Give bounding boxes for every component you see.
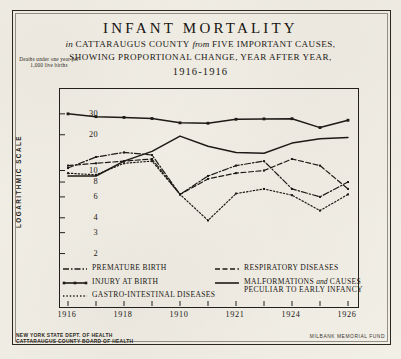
page-title: INFANT MORTALITY — [0, 20, 401, 37]
y-axis-tick-label: 2 — [64, 248, 98, 257]
series-marker — [347, 181, 349, 183]
legend-line-sample-icon — [62, 276, 92, 290]
subtitle-county: CATTARAUGUS COUNTY — [75, 39, 189, 49]
series-marker — [291, 194, 293, 196]
legend-line-sample-icon — [62, 289, 92, 303]
footer-left-line2: CATTARAUGUS COUNTY BOARD OF HEALTH — [16, 339, 133, 345]
subtitle-causes: FIVE IMPORTANT CAUSES, — [212, 39, 335, 49]
series-marker — [347, 119, 350, 122]
x-axis-tick-label: 1924 — [269, 310, 313, 319]
legend-line-sample-icon — [62, 262, 92, 276]
legend-line-sample-icon — [214, 276, 244, 292]
series-marker — [235, 193, 237, 195]
y-axis-tick-label: 8 — [64, 177, 98, 186]
legend-item-label-line2: PECULIAR TO EARLY INFANCY — [244, 286, 363, 294]
series-line — [68, 161, 348, 220]
series-marker — [291, 188, 293, 190]
y-axis-tick-label: 30 — [64, 108, 98, 117]
legend-item-label: RESPIRATORY DISEASES — [244, 262, 339, 272]
series-marker — [347, 188, 349, 190]
series-marker — [207, 219, 209, 221]
x-axis-tick-label: 1918 — [101, 310, 145, 319]
legend-item-label: MALFORMATIONS and CAUSESPECULIAR TO EARL… — [244, 276, 363, 295]
series-marker — [319, 165, 321, 167]
y-axis-tick-label: 3 — [64, 227, 98, 236]
series-marker — [291, 158, 293, 160]
series-marker — [95, 174, 97, 176]
series-marker — [123, 160, 125, 162]
legend-item[interactable]: RESPIRATORY DISEASES — [214, 262, 359, 276]
series-marker — [179, 121, 182, 124]
legend-column-right: RESPIRATORY DISEASESMALFORMATIONS and CA… — [214, 262, 359, 295]
x-axis-tick-label: 1921 — [213, 310, 257, 319]
series-marker — [95, 156, 97, 158]
series-marker — [123, 151, 125, 153]
series-line — [68, 152, 348, 197]
series-marker — [207, 122, 210, 125]
legend-item[interactable]: PREMATURE BIRTH — [62, 262, 212, 276]
legend-item-label: PREMATURE BIRTH — [92, 262, 167, 272]
y-axis-scale-label: LOGARITHMIC SCALE — [15, 127, 22, 237]
legend-item[interactable]: MALFORMATIONS and CAUSESPECULIAR TO EARL… — [214, 276, 359, 295]
legend-item[interactable]: INJURY AT BIRTH — [62, 276, 212, 290]
series-line — [68, 136, 348, 176]
subtitle-word-in: in — [66, 39, 73, 49]
series-marker — [319, 196, 321, 198]
series-marker — [235, 118, 238, 121]
subtitle-line-1: in CATTARAUGUS COUNTY from FIVE IMPORTAN… — [0, 39, 401, 49]
series-marker — [207, 175, 209, 177]
legend-item[interactable]: GASTRO-INTESTINAL DISEASES — [62, 289, 212, 303]
x-axis-tick-label: 1916 — [45, 310, 89, 319]
series-marker — [207, 178, 209, 180]
legend-item-label: GASTRO-INTESTINAL DISEASES — [92, 289, 215, 299]
y-axis-caption: Deaths under one year per 1,000 live bir… — [18, 56, 80, 68]
x-axis-tick-label: 1926 — [325, 310, 369, 319]
series-marker — [151, 160, 153, 162]
series-marker — [347, 193, 349, 195]
series-marker — [291, 117, 294, 120]
series-marker — [151, 154, 153, 156]
series-marker — [179, 193, 181, 195]
x-axis-tick-label: 1910 — [157, 310, 201, 319]
y-axis-tick-label: 4 — [64, 212, 98, 221]
series-marker — [95, 162, 97, 164]
series-marker — [151, 117, 154, 120]
footer-left: NEW YORK STATE DEPT. OF HEALTH CATTARAUG… — [16, 333, 133, 345]
footer-right: MILBANK MEMORIAL FUND — [310, 334, 385, 339]
legend-line-sample-icon — [214, 262, 244, 276]
legend-item-label: INJURY AT BIRTH — [92, 276, 158, 286]
series-line — [68, 114, 348, 128]
series-marker — [123, 116, 126, 119]
series-marker — [319, 126, 322, 129]
series-marker — [263, 188, 265, 190]
y-axis-tick-label: 20 — [64, 129, 98, 138]
subtitle-word-from: from — [192, 39, 209, 49]
series-marker — [263, 170, 265, 172]
series-marker — [235, 172, 237, 174]
series-marker — [235, 165, 237, 167]
chart-page: INFANT MORTALITY in CATTARAUGUS COUNTY f… — [0, 0, 401, 359]
series-marker — [151, 158, 153, 160]
series-marker — [123, 162, 125, 164]
chart-legend: PREMATURE BIRTHINJURY AT BIRTHGASTRO-INT… — [62, 262, 354, 304]
y-axis-tick-label: 6 — [64, 191, 98, 200]
legend-column-left: PREMATURE BIRTHINJURY AT BIRTHGASTRO-INT… — [62, 262, 212, 303]
series-marker — [319, 210, 321, 212]
series-marker — [263, 117, 266, 120]
series-marker — [263, 160, 265, 162]
y-axis-tick-label: 10 — [64, 165, 98, 174]
